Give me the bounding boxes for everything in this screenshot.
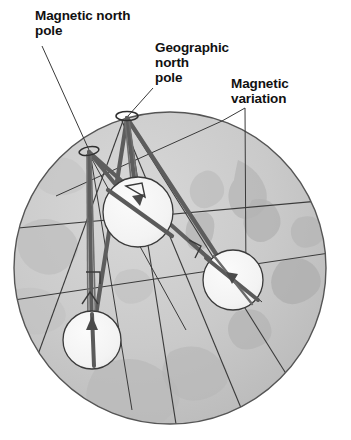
label-geographic-north-pole: Geographic north pole: [155, 40, 229, 85]
leader-line-magnetic-north-pole: [42, 46, 89, 150]
leader-line-magnetic-variation: [222, 108, 245, 121]
label-magnetic-variation: Magnetic variation: [231, 76, 289, 106]
label-magnetic-north-pole: Magnetic north pole: [35, 8, 130, 38]
compass-upper: [103, 177, 173, 247]
compass-right: [203, 250, 263, 310]
globe: [6, 112, 336, 432]
strut-thin: [87, 154, 88, 338]
magnetic-variation-diagram: Magnetic north pole Geographic north pol…: [0, 0, 351, 440]
